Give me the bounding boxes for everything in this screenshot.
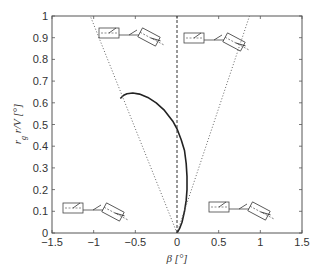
x-tick-label: 1.5 — [294, 236, 309, 248]
y-axis-label: rg r/V [°] — [11, 104, 28, 145]
y-tick-label: 0.5 — [33, 119, 48, 131]
y-tick-label: 0.1 — [33, 205, 48, 217]
y-tick-label: 0.2 — [33, 184, 48, 196]
y-tick-label: 1 — [42, 10, 48, 22]
x-tick-label: −0.5 — [124, 236, 146, 248]
y-tick-label: 0 — [42, 227, 48, 239]
x-tick-label: 0 — [174, 236, 180, 248]
x-tick-label: 0.5 — [211, 236, 226, 248]
x-tick-label: 1 — [257, 236, 263, 248]
x-axis-label: β [°] — [165, 252, 187, 264]
y-tick-label: 0.7 — [33, 75, 48, 87]
y-tick-label: 0.8 — [33, 53, 48, 65]
y-tick-label: 0.3 — [33, 162, 48, 174]
y-tick-label: 0.6 — [33, 97, 48, 109]
x-tick-label: −1 — [87, 236, 100, 248]
chart: −1.5−1−0.500.511.500.10.20.30.40.50.60.7… — [0, 0, 324, 274]
y-tick-label: 0.4 — [33, 140, 48, 152]
y-tick-label: 0.9 — [33, 32, 48, 44]
